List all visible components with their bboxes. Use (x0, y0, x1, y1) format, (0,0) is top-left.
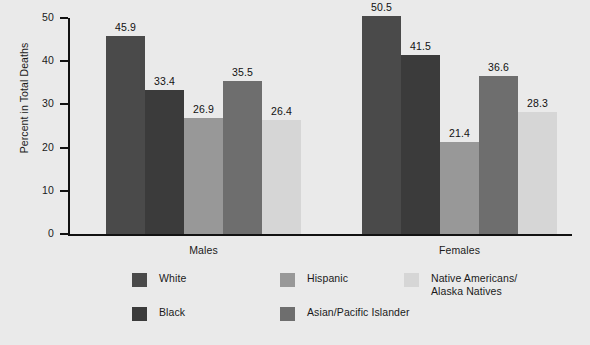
bar-value-label: 50.5 (356, 1, 407, 13)
x-axis-group-label-females: Females (410, 244, 510, 256)
bar-chart: Percent in Total Deaths 01020304050 45.9… (0, 0, 590, 345)
legend-item[interactable]: Hispanic (280, 272, 348, 287)
y-axis-line (68, 18, 70, 236)
y-tick-mark (60, 147, 68, 149)
bar-value-label: 26.9 (178, 103, 229, 115)
y-tick-label: 50 (26, 11, 54, 23)
legend-swatch-icon (280, 273, 295, 287)
legend-swatch-icon (132, 307, 147, 321)
legend-label: White (159, 272, 186, 285)
y-tick-mark (60, 60, 68, 62)
bar (184, 118, 223, 234)
bar (518, 112, 557, 234)
y-tick-mark (60, 190, 68, 192)
legend-label: Hispanic (307, 272, 348, 285)
bar (106, 36, 145, 234)
y-tick-label: 30 (26, 97, 54, 109)
legend-label: Black (159, 306, 185, 319)
legend-label: Asian/Pacific Islander (307, 306, 410, 319)
bar (262, 120, 301, 234)
x-axis-group-label-males: Males (154, 244, 254, 256)
bar (401, 55, 440, 234)
bar (440, 142, 479, 234)
y-tick-label: 40 (26, 54, 54, 66)
legend-item[interactable]: Native Americans/ Alaska Natives (404, 272, 517, 297)
legend-item[interactable]: White (132, 272, 186, 287)
legend-swatch-icon (404, 273, 419, 287)
legend-item[interactable]: Black (132, 306, 185, 321)
legend-swatch-icon (132, 273, 147, 287)
bar-value-label: 28.3 (512, 97, 563, 109)
y-tick-mark (60, 233, 68, 235)
y-tick-label: 0 (26, 227, 54, 239)
legend-label: Native Americans/ Alaska Natives (431, 272, 517, 297)
bar-value-label: 33.4 (139, 75, 190, 87)
bar (223, 81, 262, 234)
y-tick-label: 10 (26, 184, 54, 196)
bar-value-label: 35.5 (217, 66, 268, 78)
x-axis-line (68, 234, 572, 236)
bar-value-label: 36.6 (473, 61, 524, 73)
legend-item[interactable]: Asian/Pacific Islander (280, 306, 410, 321)
bar-value-label: 45.9 (100, 21, 151, 33)
y-tick-mark (60, 17, 68, 19)
legend-swatch-icon (280, 307, 295, 321)
bar-value-label: 41.5 (395, 40, 446, 52)
y-tick-label: 20 (26, 141, 54, 153)
bar-value-label: 21.4 (434, 127, 485, 139)
bar-value-label: 26.4 (256, 105, 307, 117)
y-tick-mark (60, 103, 68, 105)
legend: WhiteBlackHispanicAsian/Pacific Islander… (132, 272, 572, 334)
